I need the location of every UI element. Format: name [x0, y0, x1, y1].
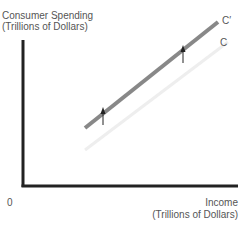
curve-c-prime-label: C′ — [222, 15, 231, 26]
origin-label: 0 — [7, 197, 13, 208]
curve-c — [85, 42, 228, 150]
curve-c-label: C — [220, 37, 227, 48]
consumption-chart — [0, 0, 250, 230]
curve-c-prime — [85, 22, 218, 128]
x-axis-label-line2: (Trillions of Dollars) — [152, 209, 238, 220]
x-axis-label-line1: Income — [205, 197, 238, 208]
